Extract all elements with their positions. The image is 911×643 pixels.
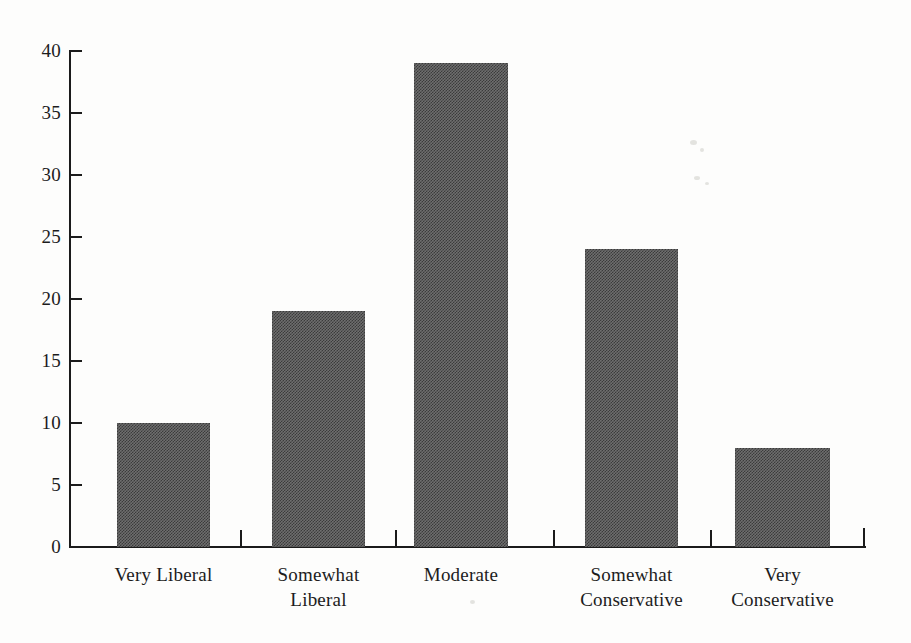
category-label-line: Somewhat: [278, 564, 360, 585]
y-axis-tick-label: 0: [21, 537, 61, 556]
category-label-line: Somewhat: [591, 564, 673, 585]
bar: [272, 311, 365, 547]
y-axis-tick-label: 20: [21, 289, 61, 308]
bar: [735, 448, 830, 547]
category-label-line: Conservative: [693, 587, 873, 612]
y-axis-tick-label: 25: [21, 227, 61, 246]
y-axis-tick-label: 40: [21, 41, 61, 60]
bar-chart: 0510152025303540 Very LiberalSomewhatLib…: [0, 0, 911, 643]
bar: [117, 423, 210, 547]
bar: [414, 63, 508, 547]
category-label-line: Very Liberal: [115, 564, 213, 585]
x-axis-category-label: Moderate: [371, 562, 551, 587]
y-axis-tick-label: 35: [21, 103, 61, 122]
y-axis-tick-label: 30: [21, 165, 61, 184]
y-axis-tick-label: 5: [21, 475, 61, 494]
y-axis-tick-label: 15: [21, 351, 61, 370]
plot-area: [70, 51, 865, 547]
x-axis-category-label: VeryConservative: [693, 562, 873, 612]
scan-speckle: [470, 600, 475, 604]
x-axis-category-label: Very Liberal: [74, 562, 254, 587]
bar: [585, 249, 678, 547]
category-label-line: Very: [764, 564, 801, 585]
category-label-line: Liberal: [229, 587, 409, 612]
y-axis-tick-label: 10: [21, 413, 61, 432]
category-label-line: Moderate: [424, 564, 498, 585]
